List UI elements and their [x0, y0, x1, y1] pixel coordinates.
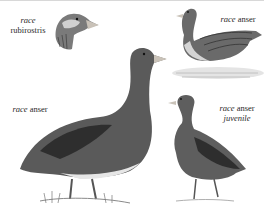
label-anser-juvenile: race anser juvenile [212, 103, 262, 123]
label-juvenile: juvenile [212, 113, 262, 123]
head-rubirostris-illustration [56, 14, 99, 50]
label-race-name: rubirostris [8, 25, 48, 35]
label-rubirostris: race rubirostris [8, 15, 48, 35]
illustration-plate: race rubirostris race anser race anser r… [0, 0, 264, 209]
label-race-name: anser [237, 103, 255, 113]
label-race-name: anser [30, 104, 48, 114]
label-anser-adult: race anser [10, 104, 50, 114]
label-race-name: anser [238, 14, 256, 24]
standing-adult-anser-illustration [20, 48, 167, 203]
label-race-word: race [220, 14, 235, 24]
label-race-word: race [8, 15, 48, 25]
label-race-word: race [12, 104, 27, 114]
label-anser-swimming: race anser [212, 14, 264, 24]
label-race-word: race [219, 103, 234, 113]
